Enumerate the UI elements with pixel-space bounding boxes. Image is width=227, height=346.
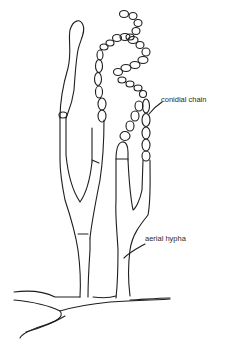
label-conidial-chain: conidial chain [161,96,206,104]
middle-conidiophore [116,101,150,298]
left-conidiophore [59,21,104,297]
right-conidial-chain [142,99,150,161]
substrate-hyphae [14,291,170,338]
conidiophore-diagram: conidial chain aerial hypha [0,0,227,346]
conidial-chain-top [120,11,143,41]
diagram-drawing [0,0,227,346]
label-aerial-hypha: aerial hypha [145,235,186,243]
